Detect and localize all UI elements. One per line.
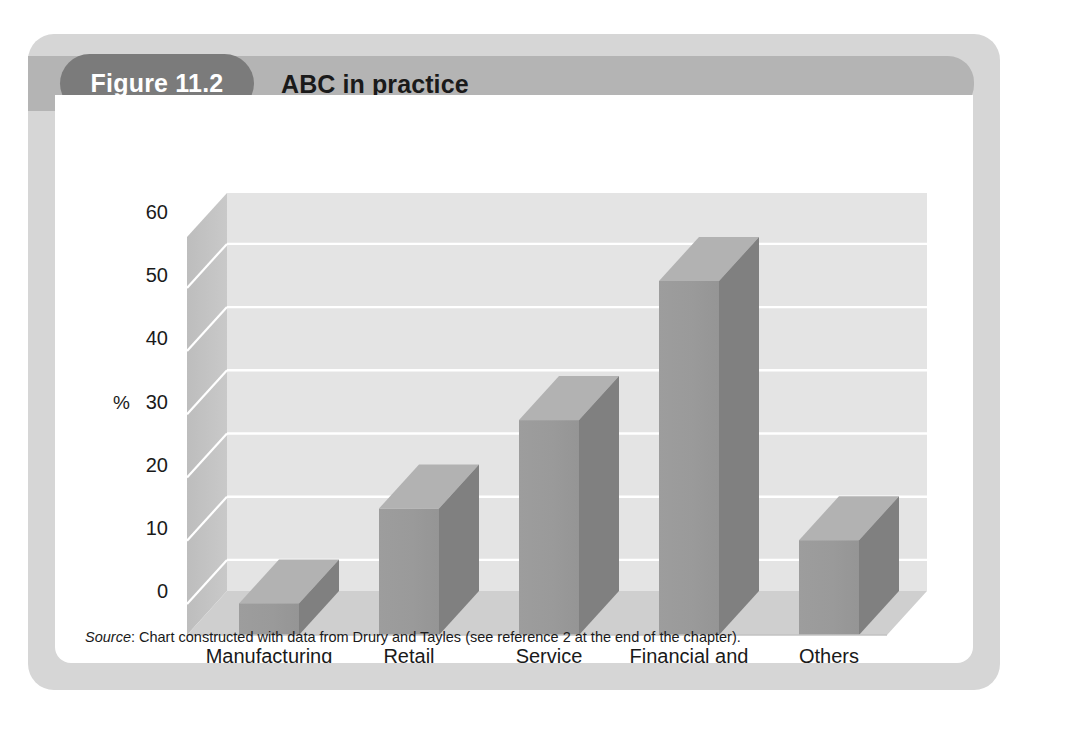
figure-frame: Figure 11.2 ABC in practice [28, 34, 1000, 690]
y-axis-labels: 0 10 20 30 40 50 60 [146, 201, 168, 602]
x-label-others: Others [799, 645, 859, 663]
chart-svg: 0 10 20 30 40 50 60 % [55, 95, 973, 663]
y-tick-50: 50 [146, 264, 168, 286]
bar-side-face [579, 376, 619, 635]
y-axis-title: % [113, 392, 130, 413]
bar-front-face [659, 281, 719, 635]
bar-financial-and-commercial [659, 237, 759, 635]
bar-front-face [379, 509, 439, 635]
y-tick-40: 40 [146, 327, 168, 349]
source-separator: : [131, 629, 139, 645]
source-text: Chart constructed with data from Drury a… [139, 629, 741, 645]
y-tick-0: 0 [157, 580, 168, 602]
x-label-manufacturing: Manufacturing [206, 645, 333, 663]
figure-body-panel: 0 10 20 30 40 50 60 % [55, 95, 973, 663]
y-tick-10: 10 [146, 517, 168, 539]
bar-front-face [799, 540, 859, 635]
y-tick-30: 30 [146, 391, 168, 413]
y-tick-20: 20 [146, 454, 168, 476]
bar-side-face [719, 237, 759, 635]
bar-front-face [519, 420, 579, 635]
bar-chart: 0 10 20 30 40 50 60 % [55, 95, 973, 663]
x-label-financial-line1: Financial and [630, 645, 749, 663]
x-label-service: Service [516, 645, 583, 663]
bar-service [519, 376, 619, 635]
source-label: Source [85, 629, 131, 645]
x-label-retail: Retail [383, 645, 434, 663]
figure-source-note: Source: Chart constructed with data from… [85, 629, 741, 645]
x-axis-labels: Manufacturing Retail Service Financial a… [206, 645, 859, 663]
figure-number-label: Figure 11.2 [91, 69, 224, 98]
plot-left-wall [187, 193, 227, 635]
y-tick-60: 60 [146, 201, 168, 223]
